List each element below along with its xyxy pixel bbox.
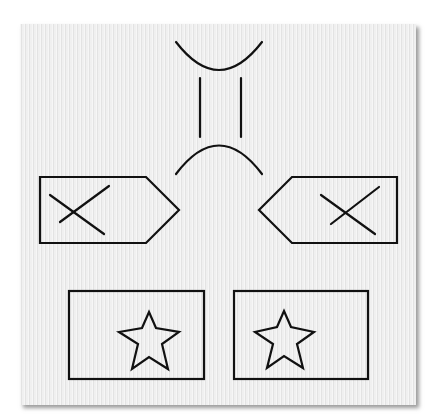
bottom-curve xyxy=(176,146,262,175)
top-curve xyxy=(176,42,262,70)
x-mark-icon xyxy=(321,187,379,234)
right-rectangle xyxy=(234,291,368,379)
star-icon xyxy=(255,311,314,368)
left-pentagon xyxy=(40,177,179,243)
left-rectangle xyxy=(69,291,204,379)
right-pentagon xyxy=(259,177,397,243)
x-mark-icon xyxy=(50,186,109,234)
shapes-diagram xyxy=(0,0,432,417)
star-icon xyxy=(119,312,179,369)
right-pentagon-outline xyxy=(259,177,397,243)
